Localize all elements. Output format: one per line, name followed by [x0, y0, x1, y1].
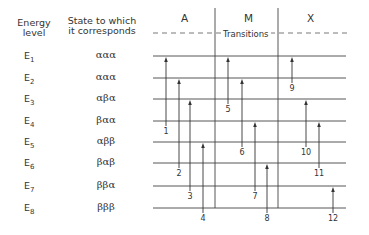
transition-arrowhead: [265, 164, 269, 169]
transition-number-label: 1: [163, 127, 168, 136]
transition-arrowhead: [177, 79, 181, 84]
transition-arrowhead: [317, 122, 321, 127]
transition-arrowhead: [188, 100, 192, 105]
transition-arrowhead: [331, 187, 335, 192]
transition-number-label: 10: [301, 148, 311, 157]
transition-number-label: 11: [314, 169, 324, 178]
energy-level-diagram: 123456789101112: [0, 0, 369, 235]
transition-number-label: 3: [187, 192, 192, 201]
transition-arrowhead: [164, 57, 168, 62]
transition-number-label: 6: [239, 148, 244, 157]
transition-number-label: 2: [176, 169, 181, 178]
transition-arrowhead: [290, 57, 294, 62]
transition-number-label: 5: [225, 105, 230, 114]
transition-arrowhead: [201, 143, 205, 148]
transition-arrowhead: [240, 79, 244, 84]
transition-number-label: 8: [264, 214, 269, 223]
transition-arrowhead: [253, 122, 257, 127]
transition-arrowhead: [304, 100, 308, 105]
transition-number-label: 4: [200, 214, 205, 223]
transition-number-label: 7: [252, 192, 257, 201]
transition-number-label: 12: [328, 214, 338, 223]
transition-number-label: 9: [289, 84, 294, 93]
transition-arrowhead: [226, 57, 230, 62]
transitions-label: Transitions: [221, 29, 271, 39]
